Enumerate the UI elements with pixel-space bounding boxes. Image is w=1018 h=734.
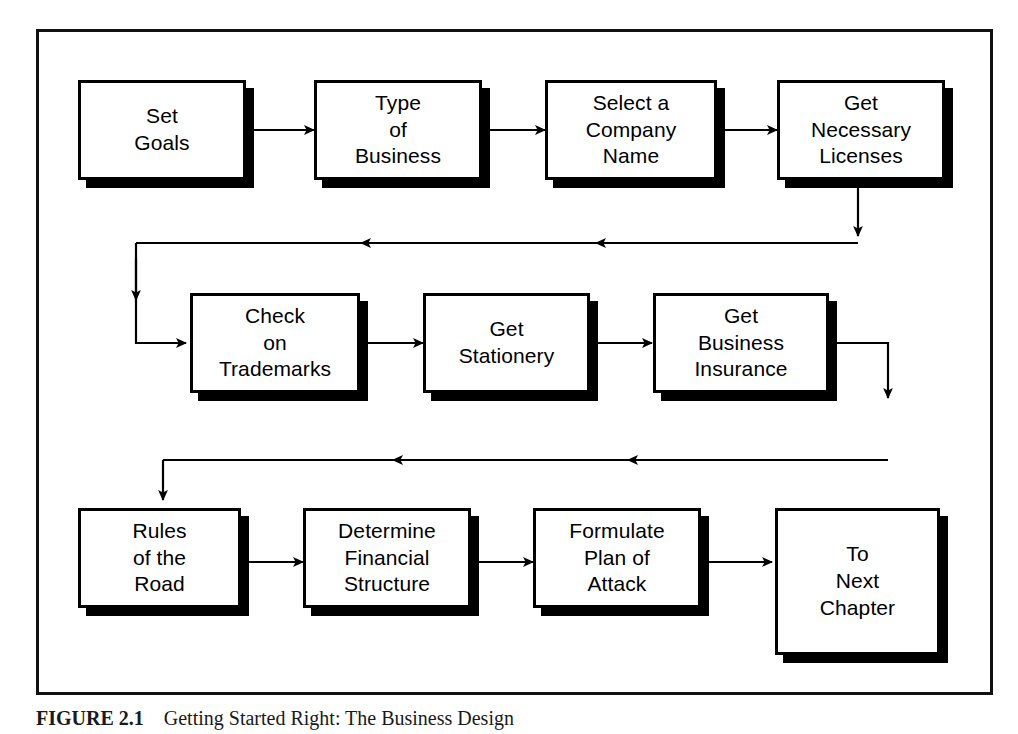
- node-get-stationery-label: Get Stationery: [453, 316, 561, 370]
- node-set-goals-label: Set Goals: [128, 103, 195, 157]
- node-to-next-chapter[interactable]: To Next Chapter: [775, 508, 940, 655]
- node-check-on-trademarks-label: Check on Trademarks: [213, 303, 337, 384]
- node-rules-of-the-road[interactable]: Rules of the Road: [78, 508, 241, 608]
- node-get-stationery[interactable]: Get Stationery: [423, 293, 590, 393]
- node-formulate-plan-of-attack[interactable]: Formulate Plan of Attack: [533, 508, 701, 608]
- node-determine-financial-structure[interactable]: Determine Financial Structure: [303, 508, 471, 608]
- node-type-of-business-label: Type of Business: [349, 90, 447, 171]
- node-check-on-trademarks[interactable]: Check on Trademarks: [190, 293, 360, 393]
- node-get-necessary-licenses[interactable]: Get Necessary Licenses: [777, 80, 945, 180]
- node-get-business-insurance[interactable]: Get Business Insurance: [653, 293, 829, 393]
- node-select-company-name[interactable]: Select a Company Name: [545, 80, 717, 180]
- figure-page: Set Goals Type of Business Select a Comp…: [0, 0, 1018, 734]
- node-formulate-plan-of-attack-label: Formulate Plan of Attack: [563, 518, 670, 599]
- node-determine-financial-structure-label: Determine Financial Structure: [332, 518, 442, 599]
- figure-caption-number: FIGURE 2.1: [36, 707, 144, 729]
- figure-caption: FIGURE 2.1 Getting Started Right: The Bu…: [36, 707, 976, 730]
- node-type-of-business[interactable]: Type of Business: [314, 80, 482, 180]
- node-get-necessary-licenses-label: Get Necessary Licenses: [805, 90, 917, 171]
- node-rules-of-the-road-label: Rules of the Road: [126, 518, 192, 599]
- node-set-goals[interactable]: Set Goals: [78, 80, 246, 180]
- node-get-business-insurance-label: Get Business Insurance: [688, 303, 793, 384]
- node-select-company-name-label: Select a Company Name: [580, 90, 683, 171]
- figure-caption-spacer: [149, 707, 159, 729]
- node-to-next-chapter-label: To Next Chapter: [814, 541, 901, 622]
- figure-caption-text: Getting Started Right: The Business Desi…: [164, 707, 514, 729]
